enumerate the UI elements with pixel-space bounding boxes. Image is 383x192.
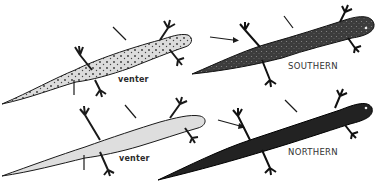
- venter-label-bottom: venter: [119, 155, 150, 163]
- venter-label-top: venter: [118, 76, 149, 84]
- illustration-art: [0, 0, 383, 192]
- northern-label: NORTHERN: [288, 148, 338, 157]
- southern-label: SOUTHERN: [288, 62, 338, 71]
- salamander-southern: [192, 5, 374, 87]
- salamander-top-left: [2, 20, 239, 104]
- salamander-illustration: venter SOUTHERN venter NORTHERN: [0, 0, 383, 192]
